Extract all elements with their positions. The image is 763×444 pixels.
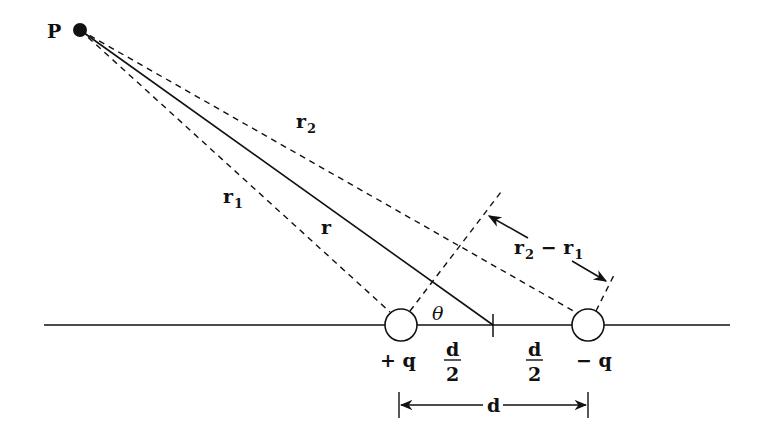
half-d-right-numerator: d bbox=[528, 338, 541, 360]
r2-minus-r1-label: r2 − r1 bbox=[514, 236, 583, 262]
plus-charge-circle bbox=[385, 309, 417, 341]
point-p-label: P bbox=[47, 20, 61, 42]
r1-label: r1 bbox=[223, 185, 243, 211]
d-label: d bbox=[487, 394, 500, 416]
plus-q-label: + q bbox=[380, 349, 416, 371]
diff-arrow-lower bbox=[572, 261, 606, 281]
r-label: r bbox=[321, 216, 332, 238]
minus-q-label: − q bbox=[576, 349, 612, 371]
point-p-dot bbox=[73, 23, 87, 37]
r2-line bbox=[80, 30, 577, 313]
diff-arrow-upper bbox=[489, 216, 528, 238]
half-d-left-numerator: d bbox=[446, 338, 459, 360]
perpendicular-plus bbox=[410, 192, 501, 311]
dipole-diagram: P r r1 r2 r2 − r1 θ + q − q d 2 d 2 d bbox=[0, 0, 763, 444]
half-d-right-denominator: 2 bbox=[528, 363, 541, 385]
r1-line bbox=[80, 30, 390, 312]
half-d-left-denominator: 2 bbox=[446, 363, 459, 385]
r-line bbox=[80, 30, 493, 325]
minus-charge-circle bbox=[572, 309, 604, 341]
theta-label: θ bbox=[432, 302, 444, 324]
r2-label: r2 bbox=[296, 110, 316, 136]
